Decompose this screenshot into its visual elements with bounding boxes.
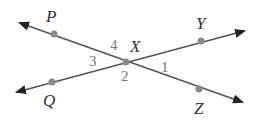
angle-label-4: 4 <box>110 37 118 53</box>
angle-label-3: 3 <box>89 53 97 69</box>
point-label-p: P <box>45 7 56 26</box>
point-label-z: Z <box>194 99 204 118</box>
point-label-x: X <box>129 37 141 56</box>
point-x <box>123 59 130 66</box>
intersecting-lines-diagram: PQXYZ1234 <box>0 0 256 125</box>
angle-label-1: 1 <box>161 59 169 75</box>
angle-label-2: 2 <box>121 68 129 84</box>
point-y <box>198 38 205 45</box>
point-q <box>49 79 56 86</box>
point-label-q: Q <box>43 91 55 110</box>
diagram-canvas: PQXYZ1234 <box>0 0 256 125</box>
point-z <box>196 86 203 93</box>
point-p <box>51 31 58 38</box>
point-label-y: Y <box>196 14 207 33</box>
